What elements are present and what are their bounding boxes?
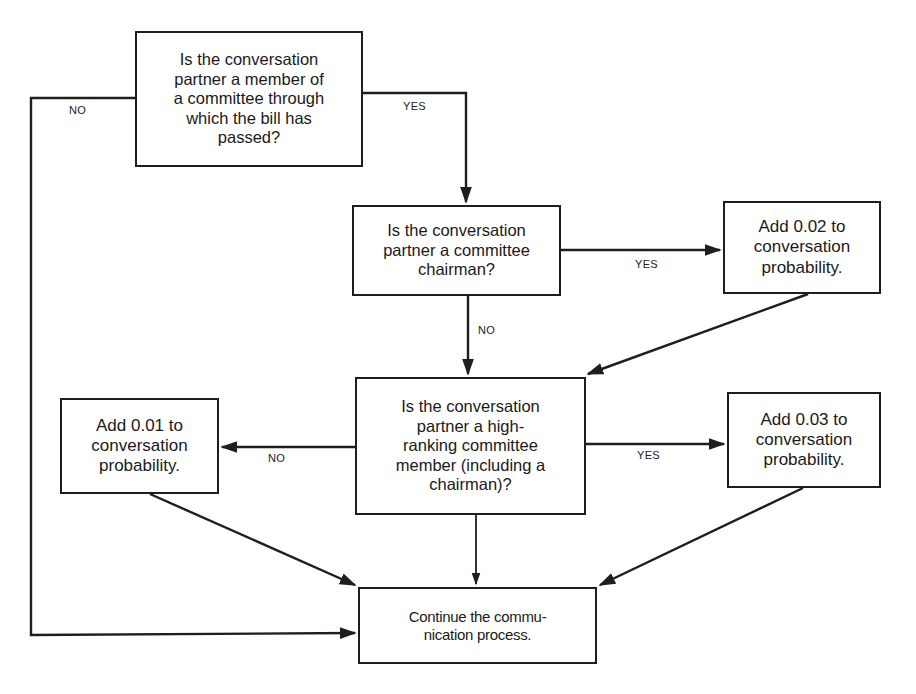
decision-committee-member: Is the conversation partner a member of … [135, 31, 363, 167]
label-committee-no: NO [69, 104, 86, 116]
edge-committee-no [31, 98, 355, 635]
action-add-003-text: Add 0.03 to conversation probability. [756, 410, 852, 470]
label-chairman-yes: YES [635, 258, 658, 270]
label-highrank-yes: YES [637, 449, 660, 461]
decision-committee-member-text: Is the conversation partner a member of … [174, 50, 324, 147]
decision-high-ranking-text: Is the conversation partner a high- rank… [396, 397, 545, 494]
label-chairman-no: NO [478, 324, 495, 336]
edge-add003-to-continue [600, 488, 803, 585]
action-add-001-text: Add 0.01 to conversation probability. [91, 416, 187, 476]
decision-chairman: Is the conversation partner a committee … [352, 205, 561, 296]
action-add-002: Add 0.02 to conversation probability. [723, 201, 881, 294]
action-add-001: Add 0.01 to conversation probability. [60, 398, 219, 494]
label-committee-yes: YES [403, 100, 426, 112]
terminal-continue-text: Continue the commu- nication process. [409, 608, 547, 643]
label-highrank-no: NO [268, 452, 285, 464]
decision-chairman-text: Is the conversation partner a committee … [383, 221, 530, 279]
decision-high-ranking: Is the conversation partner a high- rank… [355, 377, 586, 515]
terminal-continue: Continue the commu- nication process. [358, 587, 597, 664]
edge-add002-to-highrank [588, 294, 808, 374]
edge-add001-to-continue [150, 494, 355, 585]
action-add-002-text: Add 0.02 to conversation probability. [754, 217, 850, 277]
action-add-003: Add 0.03 to conversation probability. [727, 392, 881, 488]
